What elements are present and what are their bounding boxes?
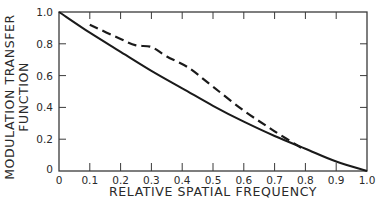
plot-frame [59,12,367,171]
y-tick-label: 0.2 [36,133,53,145]
y-tick-label: 0.6 [36,70,53,82]
x-tick-label: 0 [56,174,63,186]
y-tick-label: 0 [46,163,53,175]
y-tick-labels: 00.20.40.60.81.0 [36,6,53,175]
y-axis-title: MODULATION TRANSFER FUNCTION [2,14,31,180]
x-tick-label: 0.1 [81,174,98,186]
y-axis-title-line-2: FUNCTION [16,62,31,132]
mtf-chart: 00.10.20.30.40.50.60.70.80.91.0 00.20.40… [0,0,379,204]
y-tick-label: 0.8 [36,38,53,50]
y-axis-title-line-1: MODULATION TRANSFER [2,14,17,180]
plot-border [59,12,367,171]
x-axis-title: RELATIVE SPATIAL FREQUENCY [109,184,317,199]
dashed-mtf-curve [90,25,306,151]
y-tick-label: 1.0 [36,6,53,18]
data-series [59,12,367,171]
axis-ticks [59,12,367,171]
x-tick-label: 0.9 [328,174,345,186]
x-tick-label: 1.0 [359,174,376,186]
y-tick-label: 0.4 [36,101,53,113]
solid-mtf-curve [59,12,367,171]
